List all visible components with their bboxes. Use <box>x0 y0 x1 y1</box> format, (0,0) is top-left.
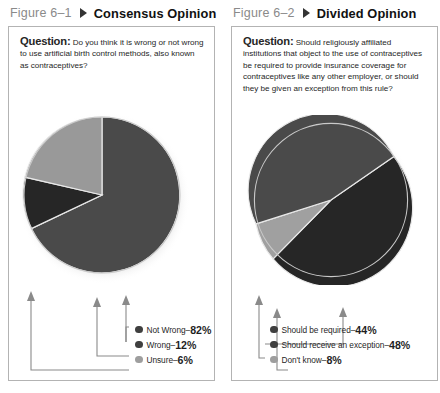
figure-panel-right: Question: Should religiously affiliated … <box>231 26 438 381</box>
legend-label: Not Wrong <box>147 325 186 335</box>
question-block-left: Question: Do you think it is wrong or no… <box>20 36 205 71</box>
legend-value: 44% <box>355 324 376 336</box>
figure-panel-left: Question: Do you think it is wrong or no… <box>8 26 215 381</box>
arrow-head-dont-know <box>273 308 281 318</box>
legend-label: Wrong <box>147 340 171 350</box>
figure-consensus-opinion: Figure 6–1 Consensus Opinion Question: D… <box>4 0 217 393</box>
legend-value: 82% <box>190 324 211 336</box>
legend-value: 6% <box>178 354 193 366</box>
figure-title: Divided Opinion <box>317 6 417 21</box>
legend-left: Not Wrong – 82% Wrong – 12% Unsure – 6% <box>135 322 211 367</box>
legend-item-dont-know: Don't know – 8% <box>270 352 410 367</box>
legend-label: Don't know <box>282 355 322 365</box>
figure-header-left: Figure 6–1 Consensus Opinion <box>10 2 216 24</box>
legend-item-unsure: Unsure – 6% <box>135 352 211 367</box>
question-lead-label: Question: <box>20 35 70 47</box>
figures-page: Figure 6–1 Consensus Opinion Question: D… <box>0 0 440 393</box>
legend-item-wrong: Wrong – 12% <box>135 337 211 352</box>
legend-label: Should receive an exception <box>282 340 385 350</box>
pie-chart-divided <box>232 115 437 285</box>
triangle-right-icon <box>303 8 310 18</box>
legend-value: 8% <box>326 354 341 366</box>
question-block-right: Question: Should religiously affiliated … <box>243 36 428 94</box>
figure-number-label: Figure 6–1 <box>10 6 72 20</box>
legend-value: 48% <box>389 339 410 351</box>
arrow-head-not-wrong <box>122 295 130 305</box>
figure-title: Consensus Opinion <box>94 6 217 21</box>
arrow-head-unsure <box>27 291 35 301</box>
legend-right: Should be required – 44% Should receive … <box>270 322 410 367</box>
legend-item-should-receive-exception: Should receive an exception – 48% <box>270 337 410 352</box>
legend-label: Unsure <box>147 355 173 365</box>
pie-chart-consensus <box>9 105 214 283</box>
arrow-head-should-receive-exception <box>339 307 347 317</box>
legend-item-not-wrong: Not Wrong – 82% <box>135 322 211 337</box>
legend-dot-icon <box>270 326 278 334</box>
figure-header-right: Figure 6–2 Divided Opinion <box>233 2 416 24</box>
legend-value: 12% <box>175 339 196 351</box>
arrow-head-wrong <box>93 297 101 307</box>
figure-number-label: Figure 6–2 <box>233 6 295 20</box>
legend-dot-icon <box>135 341 143 349</box>
legend-dot-icon <box>270 356 278 364</box>
figure-divided-opinion: Figure 6–2 Divided Opinion Question: Sho… <box>227 0 440 393</box>
legend-item-should-be-required: Should be required – 44% <box>270 322 410 337</box>
legend-dot-icon <box>135 326 143 334</box>
legend-dot-icon <box>270 341 278 349</box>
arrow-head-should-be-required <box>255 295 263 305</box>
triangle-right-icon <box>80 8 87 18</box>
legend-label: Should be required <box>282 325 351 335</box>
question-lead-label: Question: <box>243 35 293 47</box>
legend-dot-icon <box>135 356 143 364</box>
